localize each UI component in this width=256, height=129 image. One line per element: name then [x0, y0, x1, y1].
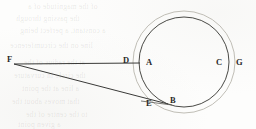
- point-label-b: B: [170, 96, 176, 105]
- point-label-f: F: [7, 55, 12, 64]
- point-label-d: D: [123, 56, 129, 65]
- geometry-figure: of the magnitude of a the passing throug…: [0, 0, 256, 129]
- point-label-e: E: [146, 99, 152, 108]
- point-label-a: A: [146, 58, 152, 67]
- point-label-c: C: [216, 58, 222, 67]
- horizontal-secant-line: [14, 63, 140, 64]
- point-label-g: G: [236, 58, 243, 67]
